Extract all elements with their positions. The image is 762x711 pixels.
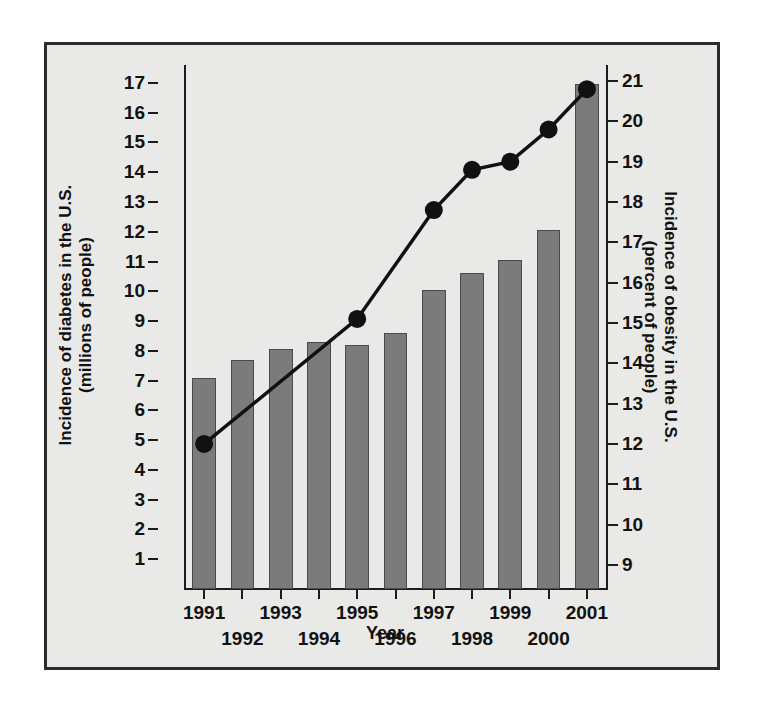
- right-tick-mark: [608, 80, 618, 82]
- x-tick-label: 1991: [169, 603, 239, 622]
- left-tick-label: 6: [105, 400, 145, 419]
- right-tick-mark: [608, 201, 618, 203]
- left-axis-spine: [184, 65, 186, 590]
- data-point-marker: [425, 201, 443, 219]
- x-tick-mark: [548, 590, 550, 599]
- bar: [384, 333, 408, 589]
- left-tick-mark: [148, 439, 158, 441]
- data-point-marker: [463, 161, 481, 179]
- right-tick-mark: [608, 483, 618, 485]
- left-tick-label: 8: [105, 341, 145, 360]
- right-tick-label: 13: [622, 394, 662, 413]
- left-tick-label: 11: [105, 252, 145, 271]
- x-tick-label: 1993: [246, 603, 316, 622]
- bar: [575, 84, 599, 589]
- right-tick-label: 18: [622, 192, 662, 211]
- x-tick-mark: [509, 590, 511, 599]
- right-tick-mark: [608, 241, 618, 243]
- right-tick-mark: [608, 403, 618, 405]
- x-tick-label: 1995: [322, 603, 392, 622]
- left-tick-mark: [148, 290, 158, 292]
- bar: [498, 260, 522, 589]
- left-tick-mark: [148, 261, 158, 263]
- left-axis-title-line2: (millions of people): [76, 100, 96, 530]
- left-tick-label: 9: [105, 311, 145, 330]
- right-tick-mark: [608, 362, 618, 364]
- left-tick-label: 10: [105, 281, 145, 300]
- left-axis-title-line1: Incidence of diabetes in the U.S.: [56, 100, 76, 530]
- right-tick-mark: [608, 161, 618, 163]
- bar: [345, 345, 369, 589]
- x-tick-mark: [280, 590, 282, 599]
- left-tick-mark: [148, 409, 158, 411]
- left-tick-mark: [148, 171, 158, 173]
- left-tick-mark: [148, 469, 158, 471]
- left-tick-label: 13: [105, 192, 145, 211]
- left-tick-label: 5: [105, 430, 145, 449]
- data-point-marker: [501, 153, 519, 171]
- data-point-marker: [540, 121, 558, 139]
- right-tick-mark: [608, 564, 618, 566]
- bar: [460, 273, 484, 589]
- left-tick-mark: [148, 141, 158, 143]
- left-tick-label: 1: [105, 549, 145, 568]
- right-tick-label: 14: [622, 353, 662, 372]
- left-tick-label: 14: [105, 162, 145, 181]
- left-tick-mark: [148, 112, 158, 114]
- right-tick-label: 17: [622, 232, 662, 251]
- left-tick-label: 4: [105, 460, 145, 479]
- x-tick-mark: [395, 590, 397, 599]
- bar: [537, 230, 561, 589]
- x-tick-label: 1997: [399, 603, 469, 622]
- x-tick-label: 1999: [475, 603, 545, 622]
- right-tick-mark: [608, 322, 618, 324]
- bar: [422, 290, 446, 589]
- left-tick-mark: [148, 499, 158, 501]
- bar: [231, 360, 255, 589]
- right-tick-label: 19: [622, 152, 662, 171]
- right-axis-title-line1: Incidence of obesity in the U.S.: [660, 102, 680, 532]
- right-tick-label: 15: [622, 313, 662, 332]
- x-tick-mark: [586, 590, 588, 599]
- x-tick-label: 2000: [514, 629, 584, 648]
- left-tick-label: 2: [105, 519, 145, 538]
- right-tick-mark: [608, 282, 618, 284]
- x-tick-mark: [203, 590, 205, 599]
- left-tick-label: 15: [105, 132, 145, 151]
- left-tick-label: 16: [105, 103, 145, 122]
- x-tick-mark: [433, 590, 435, 599]
- left-tick-mark: [148, 528, 158, 530]
- x-tick-label: 1998: [437, 629, 507, 648]
- left-tick-label: 3: [105, 490, 145, 509]
- right-tick-label: 9: [622, 555, 662, 574]
- left-tick-label: 17: [105, 73, 145, 92]
- right-tick-mark: [608, 443, 618, 445]
- right-tick-label: 12: [622, 434, 662, 453]
- bar: [307, 342, 331, 589]
- right-axis-spine: [606, 65, 608, 590]
- left-tick-mark: [148, 82, 158, 84]
- left-tick-mark: [148, 320, 158, 322]
- x-tick-label: 2001: [552, 603, 622, 622]
- right-tick-label: 11: [622, 474, 662, 493]
- x-tick-label: 1994: [284, 629, 354, 648]
- right-tick-mark: [608, 120, 618, 122]
- x-tick-mark: [356, 590, 358, 599]
- chart-figure: Incidence of diabetes in the U.S. (milli…: [44, 42, 720, 670]
- right-tick-mark: [608, 524, 618, 526]
- left-tick-mark: [148, 558, 158, 560]
- left-tick-mark: [148, 231, 158, 233]
- x-tick-label: 1996: [361, 629, 431, 648]
- left-tick-mark: [148, 201, 158, 203]
- x-tick-mark: [318, 590, 320, 599]
- right-tick-label: 21: [622, 71, 662, 90]
- right-tick-label: 16: [622, 273, 662, 292]
- left-axis-title: Incidence of diabetes in the U.S. (milli…: [56, 100, 96, 530]
- left-tick-mark: [148, 350, 158, 352]
- left-tick-label: 12: [105, 222, 145, 241]
- right-tick-label: 10: [622, 515, 662, 534]
- left-tick-mark: [148, 380, 158, 382]
- data-point-marker: [348, 310, 366, 328]
- x-tick-label: 1992: [207, 629, 277, 648]
- left-tick-label: 7: [105, 371, 145, 390]
